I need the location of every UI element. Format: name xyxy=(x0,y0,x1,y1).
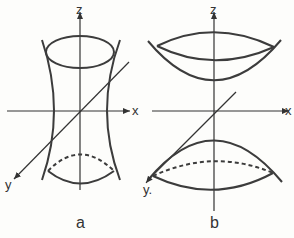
x-label-a: x xyxy=(132,103,139,118)
panel-a: z x y a xyxy=(5,2,139,231)
panel-b: z x y. b xyxy=(143,2,292,231)
caption-a: a xyxy=(76,214,85,231)
bottom-ellipse-front-a xyxy=(48,171,114,184)
caption-b: b xyxy=(210,214,219,231)
x-label-b: x xyxy=(285,103,292,118)
y-axis-a xyxy=(14,62,129,179)
z-label-b: z xyxy=(210,2,217,17)
upper-rim-front-b xyxy=(157,46,274,60)
z-label-a: z xyxy=(76,2,83,17)
upper-rim-back-b xyxy=(157,32,274,47)
y-label-b: y. xyxy=(143,182,152,197)
lower-rim-back-b xyxy=(153,161,273,176)
figure-canvas: z x y a z x y. b xyxy=(0,0,294,238)
bottom-ellipse-back-a xyxy=(48,155,114,172)
y-label-a: y xyxy=(5,177,12,192)
lower-rim-front-b xyxy=(153,173,273,190)
